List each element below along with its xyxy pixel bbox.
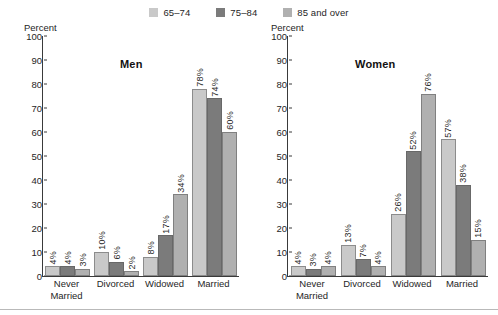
y-axis-tick-label: 10 bbox=[276, 247, 287, 258]
bar-group: 10%6%2% bbox=[92, 36, 141, 276]
y-axis-tick-label: 90 bbox=[276, 55, 287, 66]
bar-value-label: 38% bbox=[458, 164, 468, 183]
y-axis-tick: 20 bbox=[276, 223, 288, 234]
bar-column[interactable]: 4% bbox=[321, 36, 336, 276]
bar-column[interactable]: 2% bbox=[124, 36, 139, 276]
bar[interactable] bbox=[75, 269, 90, 276]
bar[interactable] bbox=[124, 271, 139, 276]
bar[interactable] bbox=[421, 94, 436, 276]
bar-column[interactable]: 4% bbox=[45, 36, 60, 276]
bar[interactable] bbox=[143, 257, 158, 276]
x-axis-category-label: Widowed bbox=[387, 278, 437, 301]
bar[interactable] bbox=[173, 194, 188, 276]
y-axis-tick-label: 80 bbox=[31, 79, 42, 90]
bar[interactable] bbox=[60, 266, 75, 276]
bar-value-label: 74% bbox=[210, 78, 220, 97]
bar-value-label: 4% bbox=[293, 251, 303, 264]
bar[interactable] bbox=[406, 151, 421, 276]
bar-column[interactable]: 78% bbox=[192, 36, 207, 276]
bar[interactable] bbox=[158, 235, 173, 276]
bar-column[interactable]: 76% bbox=[421, 36, 436, 276]
x-axis-label-line: Divorced bbox=[343, 278, 381, 289]
x-axis-label-line: Widowed bbox=[145, 278, 184, 289]
bar-value-label: 3% bbox=[78, 253, 88, 266]
bar-column[interactable]: 60% bbox=[222, 36, 237, 276]
bar[interactable] bbox=[391, 214, 406, 276]
bar[interactable] bbox=[471, 240, 486, 276]
bar[interactable] bbox=[45, 266, 60, 276]
bar-column[interactable]: 3% bbox=[306, 36, 321, 276]
bar-groups-men: 4%4%3%10%6%2%8%17%34%78%74%60% bbox=[43, 36, 239, 276]
y-axis-tick-label: 70 bbox=[31, 103, 42, 114]
bar-column[interactable]: 8% bbox=[143, 36, 158, 276]
y-axis-tick-label: 20 bbox=[31, 223, 42, 234]
legend-item-85-and-over: 85 and over bbox=[283, 7, 348, 18]
bar-column[interactable]: 15% bbox=[471, 36, 486, 276]
bar-value-label: 26% bbox=[393, 193, 403, 212]
y-axis-tick-label: 30 bbox=[31, 199, 42, 210]
bar-group: 26%52%76% bbox=[388, 36, 438, 276]
plot-area-men: 0102030405060708090100 4%4%3%10%6%2%8%17… bbox=[42, 36, 239, 277]
y-axis-tick-label: 40 bbox=[276, 175, 287, 186]
x-axis-labels-women: NeverMarriedDivorcedWidowedMarried bbox=[287, 278, 487, 301]
y-axis-tick: 30 bbox=[31, 199, 43, 210]
bar[interactable] bbox=[456, 185, 471, 276]
y-axis-tick: 60 bbox=[31, 127, 43, 138]
bar-value-label: 60% bbox=[225, 111, 235, 130]
x-axis-label-line: Married bbox=[446, 278, 478, 289]
bar-group: 57%38%15% bbox=[438, 36, 488, 276]
bar-column[interactable]: 57% bbox=[441, 36, 456, 276]
bar[interactable] bbox=[321, 266, 336, 276]
bar-value-label: 57% bbox=[443, 119, 453, 138]
y-axis-tick-label: 10 bbox=[31, 247, 42, 258]
bar-column[interactable]: 26% bbox=[391, 36, 406, 276]
bar[interactable] bbox=[207, 98, 222, 276]
bar-column[interactable]: 7% bbox=[356, 36, 371, 276]
bar-column[interactable]: 3% bbox=[75, 36, 90, 276]
bar[interactable] bbox=[441, 139, 456, 276]
bar-column[interactable]: 52% bbox=[406, 36, 421, 276]
bar-group: 4%3%4% bbox=[288, 36, 338, 276]
legend-label: 85 and over bbox=[297, 7, 348, 18]
bar-value-label: 78% bbox=[195, 68, 205, 87]
y-axis-tick-label: 100 bbox=[26, 31, 42, 42]
chart-legend: 65–74 75–84 85 and over bbox=[0, 4, 498, 20]
y-axis-tick-label: 80 bbox=[276, 79, 287, 90]
y-axis-tick: 10 bbox=[276, 247, 288, 258]
legend-swatch-icon bbox=[283, 8, 292, 17]
legend-label: 65–74 bbox=[163, 7, 190, 18]
bar-column[interactable]: 38% bbox=[456, 36, 471, 276]
x-axis-category-label: NeverMarried bbox=[287, 278, 337, 301]
bar-column[interactable]: 13% bbox=[341, 36, 356, 276]
bar-column[interactable]: 10% bbox=[94, 36, 109, 276]
bar-value-label: 10% bbox=[97, 231, 107, 250]
bar-value-label: 3% bbox=[308, 253, 318, 266]
y-axis-tick: 70 bbox=[31, 103, 43, 114]
bar[interactable] bbox=[356, 259, 371, 276]
y-axis-tick-label: 50 bbox=[31, 151, 42, 162]
bar-column[interactable]: 4% bbox=[371, 36, 386, 276]
bar[interactable] bbox=[371, 266, 386, 276]
x-axis-category-label: Widowed bbox=[140, 278, 189, 301]
y-axis-tick: 90 bbox=[31, 55, 43, 66]
bar-group: 4%4%3% bbox=[43, 36, 92, 276]
bar-column[interactable]: 34% bbox=[173, 36, 188, 276]
bar[interactable] bbox=[341, 245, 356, 276]
bar[interactable] bbox=[192, 89, 207, 276]
bar-column[interactable]: 4% bbox=[291, 36, 306, 276]
bar[interactable] bbox=[306, 269, 321, 276]
bar-value-label: 17% bbox=[161, 215, 171, 234]
bar[interactable] bbox=[291, 266, 306, 276]
bar[interactable] bbox=[109, 262, 124, 276]
y-axis-tick: 60 bbox=[276, 127, 288, 138]
bar-column[interactable]: 74% bbox=[207, 36, 222, 276]
bar-column[interactable]: 17% bbox=[158, 36, 173, 276]
bar-group: 13%7%4% bbox=[338, 36, 388, 276]
bar[interactable] bbox=[94, 252, 109, 276]
bar-column[interactable]: 4% bbox=[60, 36, 75, 276]
bar-group: 8%17%34% bbox=[141, 36, 190, 276]
bar-column[interactable]: 6% bbox=[109, 36, 124, 276]
y-axis-tick-label: 100 bbox=[271, 31, 287, 42]
bar[interactable] bbox=[222, 132, 237, 276]
y-axis-tick: 30 bbox=[276, 199, 288, 210]
